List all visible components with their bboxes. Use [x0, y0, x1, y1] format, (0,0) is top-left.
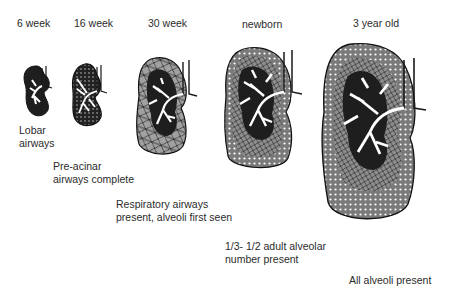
caption-16-week: Pre-acinar airways complete	[53, 160, 134, 186]
caption-16-week-line-2: airways complete	[53, 173, 134, 186]
caption-newborn-line-2: number present	[225, 253, 326, 266]
caption-6-week: Lobar airways	[19, 124, 55, 150]
caption-newborn-line-1: 1/3- 1/2 adult alveolar	[225, 240, 326, 253]
caption-30-week-line-2: present, alveoli first seen	[116, 211, 232, 224]
caption-6-week-line-1: Lobar	[19, 124, 55, 137]
lung-30-week	[137, 58, 197, 154]
lung-3-year-old	[322, 44, 426, 219]
caption-30-week: Respiratory airways present, alveoli fir…	[116, 198, 232, 224]
caption-16-week-line-1: Pre-acinar	[53, 160, 134, 173]
caption-6-week-line-2: airways	[19, 137, 55, 150]
caption-newborn: 1/3- 1/2 adult alveolar number present	[225, 240, 326, 266]
lung-6-week	[24, 66, 52, 116]
caption-30-week-line-1: Respiratory airways	[116, 198, 232, 211]
caption-3-year-old: All alveoli present	[349, 274, 431, 287]
lung-newborn	[225, 48, 302, 168]
caption-3-year-old-line-1: All alveoli present	[349, 274, 431, 287]
lung-16-week	[73, 64, 108, 126]
